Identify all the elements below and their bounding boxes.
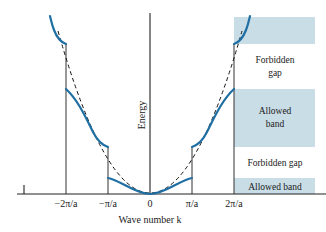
forbidden-gap-upper-label-line1: Forbidden	[255, 55, 294, 65]
forbidden-gap-lower-label: Forbidden gap	[247, 158, 302, 168]
tick-label-2pi-a: 2π/a	[225, 198, 243, 209]
band-structure-diagram: Forbidden gap Allowed band Forbidden gap…	[0, 0, 326, 232]
band-3-left-curve	[50, 16, 66, 44]
energy-axis-title: Energy	[136, 101, 147, 130]
tick-label-pi-a: π/a	[186, 198, 199, 209]
allowed-band-middle-label-line2: band	[266, 119, 285, 129]
allowed-band-middle-label-line1: Allowed	[259, 106, 292, 116]
forbidden-gap-upper-label-line2: gap	[268, 68, 282, 78]
allowed-band-bottom-label: Allowed band	[248, 182, 302, 192]
x-tick-labels: −2π/a −π/a 0 π/a 2π/a	[55, 198, 244, 209]
wave-number-axis-title: Wave number k	[118, 214, 181, 225]
tick-label-minus-pi-a: −π/a	[99, 198, 117, 209]
tick-label-minus-2pi-a: −2π/a	[55, 198, 78, 209]
band-2-left-curve	[66, 89, 108, 147]
tick-label-zero: 0	[148, 198, 153, 209]
allowed-band-middle	[234, 89, 315, 147]
band-2-right-curve	[192, 89, 234, 147]
